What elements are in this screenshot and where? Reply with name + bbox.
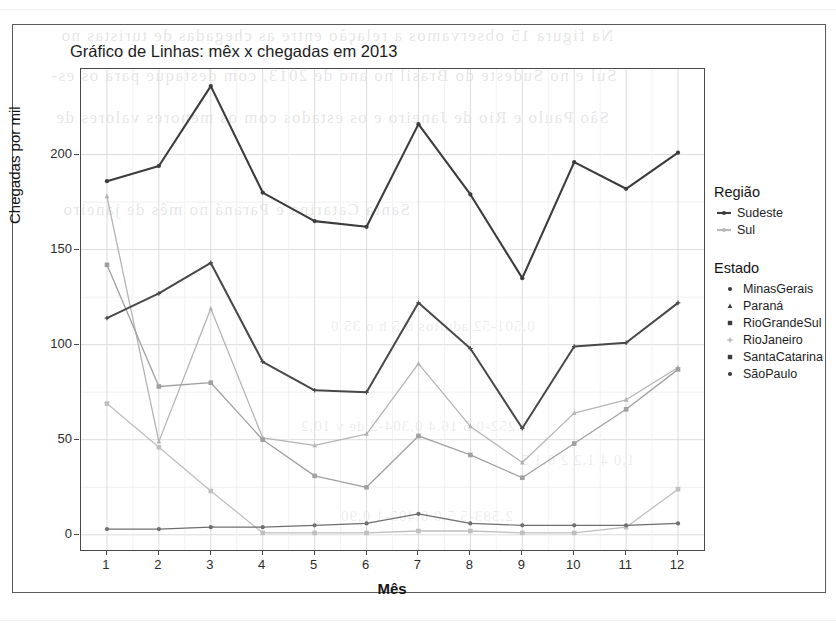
- y-tick-label: 150: [38, 241, 72, 256]
- data-point-marker: [572, 441, 577, 446]
- data-point-marker: [676, 521, 680, 525]
- data-point-marker: [572, 531, 577, 536]
- data-point-marker: [313, 219, 317, 223]
- y-tick-label: 50: [38, 431, 72, 446]
- legend-key: [720, 348, 740, 365]
- legend-key: [714, 221, 734, 238]
- data-point-marker: [468, 192, 472, 196]
- legend-item-label: SantaCatarina: [743, 350, 823, 364]
- data-point-marker: [157, 445, 162, 450]
- x-axis-title: Mês: [12, 580, 772, 597]
- data-point-marker: [312, 531, 317, 536]
- y-tick-mark: [74, 154, 79, 155]
- legend-key: [720, 365, 740, 382]
- legend-group-regiao: Região SudesteSul: [714, 184, 824, 238]
- data-point-marker: [105, 179, 109, 183]
- legend-key: [720, 314, 740, 331]
- data-point-marker: [572, 523, 576, 527]
- line-icon: [716, 222, 732, 238]
- legend-key: [720, 331, 740, 348]
- legend-item-minasgerais[interactable]: MinasGerais: [714, 280, 824, 297]
- legend-item-santacatarina[interactable]: SantaCatarina: [714, 348, 824, 365]
- legend-title-regiao: Região: [714, 184, 824, 200]
- data-point-marker: [261, 190, 265, 194]
- data-point-marker: [416, 529, 421, 534]
- chart-title: Gráfico de Linhas: mêx x chegadas em 201…: [70, 42, 397, 61]
- data-point-marker: [208, 380, 213, 385]
- data-point-marker: [468, 529, 473, 534]
- legend-item-label: RioGrandeSul: [743, 316, 822, 330]
- legend-title-estado: Estado: [714, 260, 824, 276]
- data-point-marker: [624, 407, 629, 412]
- data-point-marker: [520, 523, 524, 527]
- x-tick-label: 1: [102, 557, 109, 572]
- circle-icon: [722, 281, 738, 297]
- data-point-marker: [572, 160, 576, 164]
- data-point-marker: [676, 151, 680, 155]
- circle-cross-icon: [722, 366, 738, 382]
- y-tick-mark: [74, 534, 79, 535]
- data-point-marker: [416, 361, 421, 366]
- data-point-marker: [157, 527, 161, 531]
- x-tick-label: 10: [566, 557, 580, 572]
- data-point-marker: [312, 474, 317, 479]
- data-point-marker: [416, 512, 420, 516]
- legend-item-riojaneiro[interactable]: RioJaneiro: [714, 331, 824, 348]
- chart-legend: Região SudesteSul Estado MinasGeraisPara…: [714, 184, 824, 404]
- x-tick-label: 6: [362, 557, 369, 572]
- data-point-marker: [624, 187, 628, 191]
- legend-item-label: MinasGerais: [743, 282, 813, 296]
- data-point-marker: [208, 306, 213, 311]
- data-point-marker: [468, 453, 473, 458]
- data-point-marker: [468, 521, 472, 525]
- legend-item-riograndesul[interactable]: RioGrandeSul: [714, 314, 824, 331]
- x-tick-label: 9: [518, 557, 525, 572]
- data-point-marker: [261, 525, 265, 529]
- triangle-icon: [722, 298, 738, 314]
- plot-svg: [81, 69, 704, 550]
- legend-item-label: Paraná: [743, 299, 783, 313]
- legend-item-sul[interactable]: Sul: [714, 221, 824, 238]
- legend-key: [720, 297, 740, 314]
- x-tick-label: 7: [414, 557, 421, 572]
- x-tick-label: 5: [310, 557, 317, 572]
- data-point-marker: [416, 434, 421, 439]
- data-point-marker: [208, 489, 213, 494]
- legend-item-paraná[interactable]: Paraná: [714, 297, 824, 314]
- legend-key: [714, 204, 734, 221]
- x-tick-label: 8: [466, 557, 473, 572]
- y-tick-label: 200: [38, 146, 72, 161]
- data-point-marker: [105, 527, 109, 531]
- x-tick-label: 12: [670, 557, 684, 572]
- data-point-marker: [105, 194, 110, 199]
- x-tick-label: 4: [258, 557, 265, 572]
- data-point-marker: [676, 367, 681, 372]
- legend-item-sudeste[interactable]: Sudeste: [714, 204, 824, 221]
- y-tick-mark: [74, 344, 79, 345]
- line-chart-figure: Gráfico de Linhas: mêx x chegadas em 201…: [12, 24, 824, 591]
- data-point-marker: [157, 384, 162, 389]
- legend-item-sãopaulo[interactable]: SãoPaulo: [714, 365, 824, 382]
- square-filled-icon: [722, 315, 738, 331]
- data-point-marker: [260, 531, 265, 536]
- data-point-marker: [416, 122, 420, 126]
- data-point-marker: [364, 531, 369, 536]
- data-point-marker: [209, 525, 213, 529]
- data-point-marker: [105, 401, 110, 406]
- x-tick-label: 11: [618, 557, 632, 572]
- line-icon: [716, 205, 732, 221]
- legend-group-estado: Estado MinasGeraisParanáRioGrandeSulRioJ…: [714, 260, 824, 382]
- legend-item-label: RioJaneiro: [743, 333, 803, 347]
- y-tick-mark: [74, 439, 79, 440]
- x-tick-label: 3: [206, 557, 213, 572]
- y-tick-label: 100: [38, 336, 72, 351]
- x-tick-label: 2: [154, 557, 161, 572]
- data-point-marker: [313, 523, 317, 527]
- legend-item-label: Sul: [737, 223, 755, 237]
- data-point-marker: [209, 84, 213, 88]
- plus-icon: [722, 332, 738, 348]
- data-point-marker: [676, 487, 681, 492]
- data-point-marker: [105, 263, 110, 268]
- legend-item-label: Sudeste: [737, 206, 783, 220]
- data-point-marker: [260, 437, 265, 442]
